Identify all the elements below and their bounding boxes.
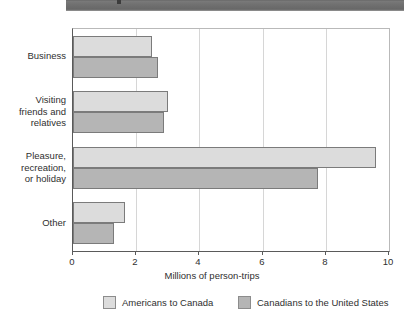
gridline	[263, 29, 264, 251]
x-tick-label-4: 8	[322, 256, 327, 267]
category-label-line: Pleasure,	[0, 150, 66, 162]
gridline	[199, 29, 200, 251]
legend-label-1: Canadians to the United States	[257, 297, 389, 308]
window-titlebar	[66, 0, 404, 11]
legend-item-1[interactable]: Canadians to the United States	[238, 296, 389, 309]
plot-area	[72, 28, 390, 252]
bar-0-series-1	[73, 57, 158, 78]
category-label-2: Pleasure,recreation,or holiday	[0, 150, 66, 185]
category-label-3: Other	[0, 217, 66, 229]
legend-swatch-0	[103, 296, 116, 309]
x-tick-label-0: 0	[69, 256, 74, 267]
legend-swatch-1	[238, 296, 251, 309]
legend-label-0: Americans to Canada	[122, 297, 213, 308]
x-tick-label-1: 2	[132, 256, 137, 267]
bar-1-series-1	[73, 112, 164, 133]
x-tick-3	[262, 251, 263, 255]
x-axis-title-text: Millions of person-trips	[144, 270, 259, 281]
category-label-line: Visiting	[0, 94, 66, 106]
category-label-line: relatives	[0, 117, 66, 129]
bar-1-series-0	[73, 91, 168, 112]
category-label-line: Business	[0, 50, 66, 62]
category-label-line: Other	[0, 217, 66, 229]
category-label-line: or holiday	[0, 173, 66, 185]
x-axis-title: Millions of person-trips	[0, 270, 404, 281]
x-tick-label-3: 6	[259, 256, 264, 267]
x-tick-0	[72, 251, 73, 255]
category-label-line: friends and	[0, 106, 66, 118]
chart-figure: BusinessVisitingfriends andrelativesPlea…	[0, 0, 404, 320]
category-label-0: Business	[0, 50, 66, 62]
x-tick-label-5: 10	[383, 256, 394, 267]
bar-0-series-0	[73, 36, 152, 57]
bar-3-series-1	[73, 223, 114, 244]
category-label-line: recreation,	[0, 162, 66, 174]
bar-2-series-0	[73, 147, 376, 168]
bar-3-series-0	[73, 202, 125, 223]
x-tick-2	[198, 251, 199, 255]
category-label-1: Visitingfriends andrelatives	[0, 94, 66, 129]
titlebar-marker-icon	[117, 0, 121, 4]
x-tick-4	[325, 251, 326, 255]
x-tick-label-2: 4	[195, 256, 200, 267]
x-tick-1	[135, 251, 136, 255]
bar-2-series-1	[73, 168, 318, 189]
legend-item-0[interactable]: Americans to Canada	[103, 296, 213, 309]
x-tick-5	[388, 251, 389, 255]
chart-legend: Americans to CanadaCanadians to the Unit…	[0, 296, 404, 316]
gridline	[326, 29, 327, 251]
